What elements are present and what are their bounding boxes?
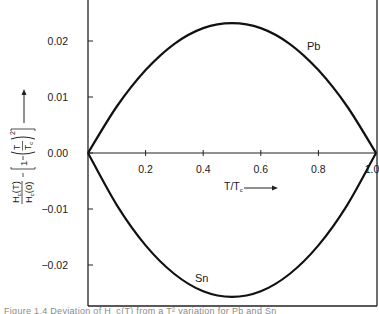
x-tick-label: 0.2 xyxy=(138,163,153,175)
x-tick-label: 0.6 xyxy=(253,163,268,175)
series-label-sn: Sn xyxy=(195,272,208,284)
y-tick-label: 0.00 xyxy=(48,147,69,159)
y-ticks: 0.020.010.00−0.01−0.02 xyxy=(41,35,93,271)
series-label-pb: Pb xyxy=(307,40,320,52)
y-tick-label: 0.01 xyxy=(48,91,69,103)
y-tick-label: −0.02 xyxy=(41,259,68,271)
plot-frame xyxy=(88,0,377,306)
chart: 0.020.010.00−0.01−0.02 0.20.40.60.81.0 P… xyxy=(0,0,379,314)
x-axis-label: T/Tc xyxy=(224,180,278,193)
y-axis-label: Hc(T) Hc(0) 1 T Tc 2 xyxy=(9,89,35,204)
svg-text:Hc(T): Hc(T) xyxy=(10,181,22,203)
right-paren xyxy=(11,137,35,139)
svg-text:1: 1 xyxy=(18,161,29,166)
svg-text:2: 2 xyxy=(9,131,16,135)
left-bracket xyxy=(11,167,35,169)
x-axis-arrowhead-icon xyxy=(272,186,278,191)
y-tick-label: 0.02 xyxy=(48,35,69,47)
svg-text:Tc: Tc xyxy=(23,142,34,150)
y-tick-label: −0.01 xyxy=(41,203,68,215)
x-tick-label: 0.4 xyxy=(196,163,211,175)
svg-text:T/Tc: T/Tc xyxy=(224,180,243,193)
right-bracket xyxy=(11,129,35,131)
x-ticks: 0.20.40.60.81.0 xyxy=(138,150,379,175)
series-sn-line xyxy=(88,153,376,297)
left-paren xyxy=(11,152,35,154)
figure-caption: Figure 1.4 Deviation of H_c(T) from a T²… xyxy=(4,306,277,314)
y-axis-arrowhead-icon xyxy=(22,89,27,95)
svg-text:Hc(0): Hc(0) xyxy=(23,182,35,204)
svg-text:T: T xyxy=(12,145,22,150)
x-tick-label: 0.8 xyxy=(311,163,326,175)
series-pb-line xyxy=(88,23,376,153)
